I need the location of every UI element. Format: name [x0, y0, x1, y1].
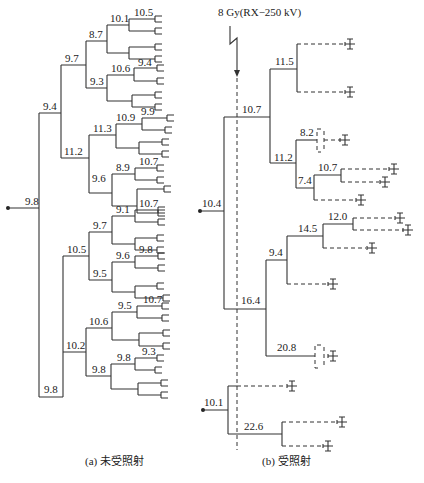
node-label: 9.4 — [269, 246, 283, 258]
node-label: 10.4 — [202, 197, 222, 209]
node-label: 9.6 — [116, 249, 130, 261]
node-label: 16.4 — [241, 294, 261, 306]
node-label: 12.0 — [328, 210, 348, 222]
node-label: 10.2 — [66, 339, 85, 351]
node-label: 10.1 — [110, 12, 129, 24]
node-label: 9.6 — [92, 172, 106, 184]
node-label: 10.5 — [67, 243, 87, 255]
node-label: 10.7 — [242, 103, 262, 115]
node-label: 10.7 — [139, 155, 159, 167]
node-label: 14.5 — [298, 222, 318, 234]
node-label: 9.1 — [116, 203, 130, 215]
node-label: 9.5 — [118, 299, 132, 311]
node-label: 9.4 — [138, 56, 152, 68]
node-label: 7.4 — [298, 174, 312, 186]
node-label: 11.2 — [64, 145, 83, 157]
node-label: 11.5 — [275, 55, 294, 67]
node-label: 11.2 — [274, 151, 293, 163]
node-label: 9.7 — [93, 219, 107, 231]
arrow-head-icon — [234, 70, 240, 77]
node-label: 9.8 — [44, 383, 58, 395]
node-label: 10.9 — [116, 111, 136, 123]
node-label: 10.1 — [204, 396, 223, 408]
node-label: 9.7 — [65, 52, 79, 64]
node-label: 10.6 — [111, 62, 131, 74]
lightning-arrow-icon — [230, 26, 237, 74]
panel-a-tree: 9.8 9.4 9.7 8.7 10.1 10.5 9.3 10.6 9.4 1… — [6, 6, 174, 398]
node-label: 8.2 — [300, 126, 314, 138]
node-label: 9.8 — [92, 363, 106, 375]
irradiation-label: 8 Gy(RX−250 kV) — [218, 6, 302, 19]
node-label: 10.7 — [139, 197, 159, 209]
node-label: 22.6 — [244, 420, 264, 432]
node-label: 9.8 — [117, 351, 131, 363]
node-label: 9.9 — [141, 105, 155, 117]
node-label: 10.7 — [143, 293, 163, 305]
node-label: 10.6 — [89, 315, 109, 327]
node-label: 9.4 — [43, 100, 57, 112]
node-label: 9.3 — [90, 75, 104, 87]
node-label: 8.7 — [89, 28, 103, 40]
lineage-tree-figure: 9.8 9.4 9.7 8.7 10.1 10.5 9.3 10.6 9.4 1… — [0, 0, 424, 483]
node-label: 10.7 — [318, 161, 338, 173]
caption-a: (a) 未受照射 — [85, 454, 144, 468]
node-label: 8.9 — [116, 161, 130, 173]
node-label: 10.5 — [134, 6, 154, 18]
caption-b: (b) 受照射 — [262, 454, 311, 468]
node-label: 20.8 — [277, 341, 297, 353]
node-label: 11.3 — [93, 122, 112, 134]
node-label: 9.3 — [142, 345, 156, 357]
node-label: 9.8 — [139, 243, 153, 255]
node-label: 9.5 — [93, 267, 107, 279]
panel-b-tree: 8 Gy(RX−250 kV) 10.4 10.7 11.5 11.2 8.2 … — [198, 6, 413, 451]
node-label: 9.8 — [25, 195, 39, 207]
